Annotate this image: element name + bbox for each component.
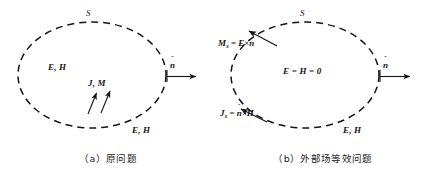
normal-hat-group: ˆn — [383, 60, 388, 70]
ms-symbol: M — [218, 38, 226, 48]
exterior-field-label: E, H — [132, 125, 150, 135]
electric-surface-current-label: Js=ˆn×H — [220, 108, 254, 119]
panel-original-problem: S E, H J, M E, H ˆn （a）原问题 — [0, 0, 216, 169]
js-equals: = — [227, 108, 236, 118]
js-operand-n: n — [237, 108, 242, 118]
closed-surface-ellipse — [18, 22, 166, 128]
magnetic-surface-current-label: Ms=E×ˆn — [218, 38, 254, 49]
source-currents-label: J, M — [88, 78, 106, 88]
normal-vector-label: ˆn — [383, 60, 388, 70]
normal-vector-label: ˆn — [170, 60, 175, 70]
js-normal-hat-group: ˆn — [237, 108, 242, 118]
interior-null-field-label: E = H = 0 — [283, 66, 322, 76]
panel-a-caption: （a）原问题 — [0, 151, 216, 165]
hat-accent-icon: ˆ — [384, 55, 387, 62]
hat-accent-icon: ˆ — [251, 33, 254, 40]
ms-equals: = — [229, 38, 238, 48]
hat-accent-icon: ˆ — [171, 55, 174, 62]
ms-operand-n: n — [249, 38, 254, 48]
surface-label-s: S — [86, 8, 91, 18]
equivalence-principle-figure: S E, H J, M E, H ˆn （a）原问题 — [0, 0, 431, 169]
js-operand-h: H — [247, 108, 254, 118]
panel-exterior-equivalent-problem: S Ms=E×ˆn E = H = 0 Js=ˆn×H E, H ˆn （b）外… — [215, 0, 431, 169]
panel-b-diagram — [215, 0, 431, 145]
surface-label-s: S — [300, 8, 305, 18]
exterior-field-label: E, H — [343, 125, 361, 135]
normal-vector-symbol: n — [170, 60, 175, 70]
normal-hat-group: ˆn — [170, 60, 175, 70]
hat-accent-icon: ˆ — [238, 103, 241, 110]
ms-normal-hat-group: ˆn — [249, 38, 254, 48]
panel-a-diagram — [0, 0, 216, 145]
source-arrow-1 — [88, 93, 97, 114]
source-arrow-2 — [101, 91, 110, 113]
panel-b-caption: （b）外部场等效问题 — [215, 151, 431, 165]
interior-field-label: E, H — [48, 62, 66, 72]
normal-vector-symbol: n — [383, 60, 388, 70]
